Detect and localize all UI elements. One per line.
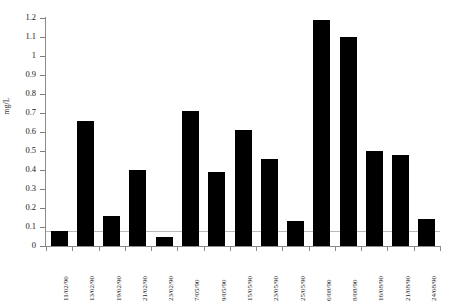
- bar: [103, 216, 120, 246]
- bar: [340, 37, 357, 246]
- x-axis-tick-mark: [72, 247, 73, 251]
- bar: [156, 237, 173, 247]
- bar: [392, 155, 409, 246]
- y-axis-tick: 0.2: [0, 208, 46, 209]
- x-axis-tick-mark: [99, 247, 100, 251]
- y-axis-tick: 0.4: [0, 170, 46, 171]
- x-axis-tick-label: 25/05/90: [299, 276, 307, 301]
- bar: [77, 121, 94, 246]
- y-axis-tick: 0: [0, 246, 46, 247]
- bar: [366, 151, 383, 246]
- y-axis-tick-label: 1: [32, 50, 36, 60]
- bar: [235, 130, 252, 246]
- x-axis-tick-mark: [361, 247, 362, 251]
- x-axis-tick-label: 21/02/90: [141, 276, 149, 301]
- x-axis-tick-mark: [46, 247, 47, 251]
- x-axis-tick-label: 9/05/90: [220, 280, 228, 301]
- y-axis-tick-label: 0.5: [25, 145, 36, 155]
- y-axis-tick: 0.8: [0, 94, 46, 95]
- bar: [182, 111, 199, 246]
- x-axis-tick-mark: [414, 247, 415, 251]
- x-axis-tick-mark: [125, 247, 126, 251]
- y-axis-tick: 0.3: [0, 189, 46, 190]
- bar: [313, 20, 330, 246]
- y-axis-tick: 0.9: [0, 75, 46, 76]
- y-axis-tick-label: 0.2: [25, 202, 36, 212]
- y-axis-tick: 0.6: [0, 132, 46, 133]
- x-axis-tick-mark: [177, 247, 178, 251]
- bar: [129, 170, 146, 246]
- y-axis-tick: 0.5: [0, 151, 46, 152]
- y-axis-title: mg/L: [0, 84, 14, 128]
- bar: [208, 172, 225, 246]
- x-axis-tick-mark: [440, 247, 441, 251]
- plot-area: [46, 18, 440, 246]
- y-axis-tick: 1.1: [0, 37, 46, 38]
- x-axis-tick-mark: [151, 247, 152, 251]
- y-axis-tick-label: 0.1: [25, 221, 36, 231]
- y-axis-tick: 1: [0, 56, 46, 57]
- bar-chart: mg/L 00.10.20.30.40.50.60.70.80.911.11.2…: [0, 0, 450, 307]
- y-axis-tick: 1.2: [0, 18, 46, 19]
- x-axis-tick-label: 16/08/90: [377, 276, 385, 301]
- x-axis-tick-label: 6/08/90: [325, 280, 333, 301]
- y-axis-tick-label: 0.7: [25, 107, 36, 117]
- x-axis-tick-label: 11/02/90: [62, 276, 70, 301]
- x-axis-tick-label: 15/05/90: [246, 276, 254, 301]
- y-axis-tick-label: 0.9: [25, 69, 36, 79]
- x-axis-tick-mark: [230, 247, 231, 251]
- x-axis-tick-label: 19/02/90: [115, 276, 123, 301]
- y-axis-tick-label: 0: [32, 240, 36, 250]
- x-axis-tick-mark: [282, 247, 283, 251]
- x-axis-tick-label: 8/08/90: [351, 280, 359, 301]
- bar: [51, 231, 68, 246]
- x-axis-tick-label: 23/02/90: [167, 276, 175, 301]
- x-axis-tick-mark: [309, 247, 310, 251]
- y-axis-tick-label: 0.3: [25, 183, 36, 193]
- y-axis-tick: 0.7: [0, 113, 46, 114]
- x-axis-tick-mark: [256, 247, 257, 251]
- x-axis-tick-mark: [387, 247, 388, 251]
- x-axis-tick-label: 7/05/90: [193, 280, 201, 301]
- x-axis-tick-label: 23/05/90: [272, 276, 280, 301]
- y-axis-tick-label: 1.2: [25, 12, 36, 22]
- y-axis-tick-label: 1.1: [25, 31, 36, 41]
- bar: [287, 221, 304, 246]
- y-axis-tick-label: 0.8: [25, 88, 36, 98]
- x-axis-tick-mark: [335, 247, 336, 251]
- x-axis-tick-label: 13/02/90: [88, 276, 96, 301]
- x-axis-tick-label: 21/08/90: [404, 276, 412, 301]
- x-axis-line: [45, 246, 441, 247]
- y-axis-tick-label: 0.4: [25, 164, 36, 174]
- x-axis-tick-label: 24/08/90: [430, 276, 438, 301]
- y-axis-tick: 0.1: [0, 227, 46, 228]
- y-axis-tick-label: 0.6: [25, 126, 36, 136]
- x-axis-tick-mark: [204, 247, 205, 251]
- bar: [261, 159, 278, 246]
- bar: [418, 219, 435, 246]
